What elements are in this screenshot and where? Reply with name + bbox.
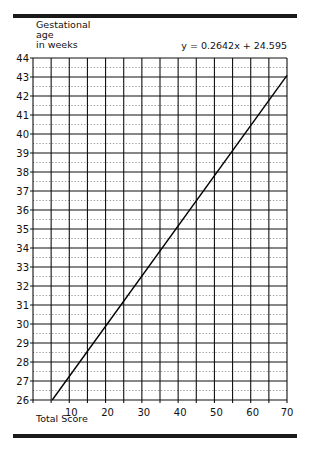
x-tick-label: 70: [281, 407, 294, 418]
y-tick-label: 36: [16, 205, 29, 216]
y-tick-label: 44: [16, 53, 29, 64]
y-tick-label: 28: [16, 357, 29, 368]
y-tick-label: 33: [16, 262, 29, 273]
y-tick-label: 31: [16, 300, 29, 311]
y-tick-label: 39: [16, 148, 29, 159]
y-tick-label: 37: [16, 186, 29, 197]
y-tick-label: 29: [16, 338, 29, 349]
y-tick-label: 26: [16, 395, 29, 406]
y-tick-label: 43: [16, 72, 29, 83]
x-tick-label: 40: [174, 407, 187, 418]
y-tick-label: 38: [16, 167, 29, 178]
y-tick-label: 35: [16, 224, 29, 235]
y-tick-label: 30: [16, 319, 29, 330]
chart-plot: 2627282930313233343536373839404142434410…: [0, 0, 312, 450]
y-tick-label: 34: [16, 243, 29, 254]
y-tick-label: 41: [16, 110, 29, 121]
x-tick-label: 10: [65, 407, 78, 418]
x-tick-label: 50: [210, 407, 223, 418]
y-tick-label: 32: [16, 281, 29, 292]
x-tick-label: 60: [246, 407, 259, 418]
x-tick-label: 30: [137, 407, 150, 418]
y-tick-label: 27: [16, 376, 29, 387]
y-tick-label: 40: [16, 129, 29, 140]
y-tick-label: 42: [16, 91, 29, 102]
x-tick-label: 20: [101, 407, 114, 418]
